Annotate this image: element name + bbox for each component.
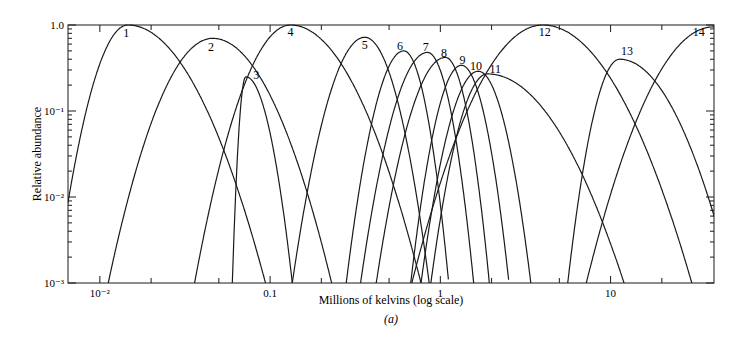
x-axis-title: Millions of kelvins (log scale) bbox=[319, 293, 464, 307]
curve-labels: 1234567891011121314 bbox=[123, 25, 705, 82]
curve-label-3: 3 bbox=[253, 68, 259, 82]
curve-label-6: 6 bbox=[397, 39, 403, 53]
curve-1 bbox=[60, 25, 267, 286]
curve-4 bbox=[195, 25, 422, 286]
curve-2 bbox=[107, 38, 332, 287]
curve-label-1: 1 bbox=[123, 26, 129, 40]
y-tick-label: 1.0 bbox=[50, 19, 64, 31]
curve-label-5: 5 bbox=[362, 38, 368, 52]
curve-label-7: 7 bbox=[423, 40, 429, 54]
x-tick-label: 0.1 bbox=[263, 287, 277, 299]
curve-label-4: 4 bbox=[288, 25, 294, 39]
x-tick-label: 10 bbox=[605, 287, 617, 299]
chart-canvas: 1234567891011121314 10⁻²0.1110 1.010⁻¹10… bbox=[0, 0, 749, 345]
curve-label-8: 8 bbox=[441, 46, 447, 60]
y-tick-label: 10⁻¹ bbox=[44, 105, 64, 117]
curve-label-2: 2 bbox=[208, 40, 214, 54]
curve-label-14: 14 bbox=[693, 25, 705, 39]
abundance-curves bbox=[60, 25, 722, 287]
x-tick-label: 10⁻² bbox=[90, 287, 111, 299]
y-axis-ticks: 1.010⁻¹10⁻²10⁻³ bbox=[44, 19, 714, 289]
curve-label-10: 10 bbox=[470, 59, 482, 73]
plot-frame bbox=[68, 25, 714, 283]
y-axis-title: Relative abundance bbox=[30, 107, 44, 201]
curve-3 bbox=[232, 77, 292, 287]
y-tick-label: 10⁻³ bbox=[44, 277, 65, 289]
curve-label-12: 12 bbox=[539, 25, 551, 39]
curve-13 bbox=[568, 59, 722, 283]
curve-10 bbox=[421, 71, 531, 283]
curve-7 bbox=[361, 52, 474, 284]
curve-label-9: 9 bbox=[460, 53, 466, 67]
curve-label-11: 11 bbox=[489, 62, 501, 76]
curve-8 bbox=[376, 57, 489, 283]
curve-label-13: 13 bbox=[621, 44, 633, 58]
y-tick-label: 10⁻² bbox=[44, 191, 65, 203]
curve-5 bbox=[292, 37, 429, 284]
figure-caption: (a) bbox=[384, 312, 398, 326]
